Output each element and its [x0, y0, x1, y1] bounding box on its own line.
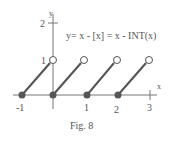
- y-axis-label: y: [49, 9, 53, 18]
- figure-caption: Fig. 8: [70, 120, 93, 131]
- segment-1: [22, 63, 50, 95]
- open-dot: [114, 57, 121, 64]
- chart: y 2 1 x -1 1 2 3 y= x - [x] = x - INT(x)…: [0, 0, 174, 144]
- open-dot: [50, 57, 57, 64]
- closed-dot: [50, 92, 57, 99]
- closed-dot: [84, 92, 91, 99]
- segment-4: [118, 63, 146, 95]
- y-tick-label-1: 1: [41, 55, 46, 66]
- closed-dot: [115, 92, 122, 99]
- open-dot: [146, 57, 153, 64]
- x-axis-label: x: [157, 82, 161, 91]
- x-tick-label-1: 1: [84, 102, 89, 113]
- closed-dot: [19, 92, 26, 99]
- open-endpoints: [50, 57, 153, 64]
- segment-3: [87, 63, 114, 95]
- x-tick-label-2: 2: [114, 104, 119, 115]
- segment-2: [53, 63, 81, 95]
- sawtooth-series: [22, 63, 146, 95]
- x-tick-label-neg1: -1: [16, 102, 24, 113]
- y-tick-label-2: 2: [40, 18, 45, 29]
- open-dot: [81, 57, 88, 64]
- x-tick-label-3: 3: [147, 102, 152, 113]
- chart-title: y= x - [x] = x - INT(x): [66, 30, 156, 42]
